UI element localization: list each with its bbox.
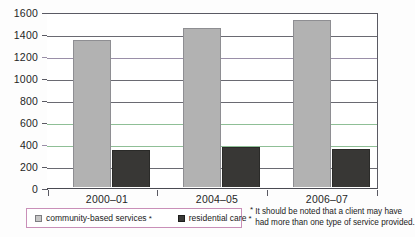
- bar-residential-2004-05[interactable]: [222, 147, 260, 187]
- y-axis-labels: 1600 1400 1200 1000 800 600 400 200 0: [0, 0, 40, 237]
- community-swatch-icon: [35, 215, 42, 222]
- x-category-label-2000-01: 2000–01: [62, 193, 152, 205]
- bar-community-2000-01[interactable]: [73, 40, 111, 187]
- x-tick-start: [48, 190, 49, 196]
- residential-swatch-icon: [178, 215, 185, 222]
- bar-group-2006-07: [293, 12, 373, 187]
- footnote-text: It should be noted that a client may hav…: [255, 206, 415, 228]
- y-tick-label-800: 800: [0, 96, 38, 107]
- y-tick-label-600: 600: [0, 118, 38, 129]
- y-tick-label-200: 200: [0, 162, 38, 173]
- legend-label-community-based-services: community-based services: [46, 214, 147, 223]
- bar-group-2004-05: [183, 12, 263, 187]
- x-category-label-2006-07: 2006–07: [282, 193, 372, 205]
- x-tick-divider-2: [267, 190, 268, 196]
- y-tick-label-1000: 1000: [0, 74, 38, 85]
- chart-legend: community-based services * residential c…: [26, 208, 242, 228]
- chart-footnote: * It should be noted that a client may h…: [250, 206, 415, 228]
- legend-label-residential-care: residential care: [189, 214, 247, 223]
- legend-item-residential-care[interactable]: residential care *: [178, 214, 252, 223]
- bar-community-2004-05[interactable]: [183, 28, 221, 187]
- y-tick-label-1200: 1200: [0, 52, 38, 63]
- bar-group-2000-01: [73, 12, 153, 187]
- y-tick-label-1400: 1400: [0, 30, 38, 41]
- bar-residential-2000-01[interactable]: [112, 150, 150, 187]
- y-tick-label-400: 400: [0, 140, 38, 151]
- x-category-label-2004-05: 2004–05: [172, 193, 262, 205]
- legend-item-community-based-services[interactable]: community-based services *: [35, 214, 152, 223]
- plot-area: [47, 13, 378, 189]
- chart-figure: 1600 1400 1200 1000 800 600 400 200 0: [0, 0, 415, 237]
- bar-residential-2006-07[interactable]: [332, 149, 370, 187]
- footnote-marker: *: [250, 206, 253, 228]
- y-tick-label-1600: 1600: [0, 8, 38, 19]
- bar-community-2006-07[interactable]: [293, 20, 331, 187]
- x-tick-end: [377, 190, 378, 196]
- y-tick-label-0: 0: [0, 184, 38, 195]
- x-tick-divider-1: [157, 190, 158, 196]
- legend-asterisk-community: *: [149, 214, 152, 223]
